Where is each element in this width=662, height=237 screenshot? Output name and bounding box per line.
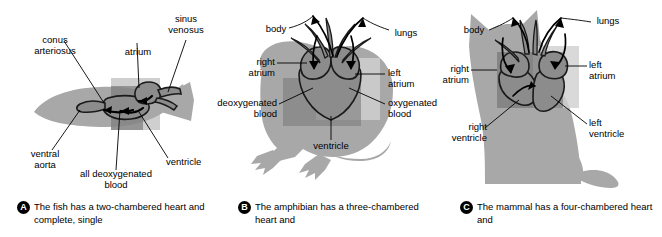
panel-fish: conus arteriosus atrium sinus venosus ve… [0, 0, 221, 237]
label-conus-arteriosus: conus arteriosus [14, 34, 96, 56]
leader-sinus [168, 40, 186, 92]
badge-a: A [17, 201, 30, 214]
comparative-heart-figure: conus arteriosus atrium sinus venosus ve… [0, 0, 662, 237]
label-lungs: lungs [587, 15, 629, 26]
caption-mammal-text: The mammal has a four-chambered heart an… [477, 201, 657, 226]
label-right-atrium: right atrium [421, 63, 469, 85]
label-left-atrium-line2: atrium [589, 70, 641, 81]
label-deoxygenated-blood: deoxygenated blood [205, 97, 277, 119]
badge-b: B [238, 201, 251, 214]
label-right-ventricle-line2: ventricle [417, 132, 487, 143]
label-ventricle: ventricle [166, 156, 220, 167]
label-lungs-line1: lungs [587, 15, 629, 26]
label-ventral-aorta-line1: ventral [18, 148, 72, 159]
fish-conus-arteriosus [77, 101, 105, 112]
label-ventral-aorta: ventral aorta [18, 148, 72, 170]
label-left-atrium-line1: left [589, 59, 641, 70]
label-ventricle-line1: ventricle [303, 140, 359, 151]
caption-amphibian-text: The amphibian has a three-chambered hear… [255, 201, 435, 226]
label-body-line1: body [257, 23, 295, 34]
label-deoxygenated-blood-line2: blood [205, 108, 277, 119]
panel-amphibian: body lungs right atrium left atrium deox… [221, 0, 442, 237]
label-ventricle: ventricle [303, 140, 359, 151]
label-all-deoxygenated-blood-line2: blood [62, 179, 170, 190]
label-ventricle-line1: ventricle [166, 156, 220, 167]
label-right-ventricle: right ventricle [417, 121, 487, 143]
label-atrium: atrium [112, 46, 164, 57]
label-left-ventricle: left ventricle [589, 117, 655, 139]
label-atrium-line1: atrium [112, 46, 164, 57]
label-conus-arteriosus-line1: conus [14, 34, 96, 45]
caption-fish-text: The fish has a two-chambered heart and c… [34, 201, 214, 226]
label-all-deoxygenated-blood-line1: all deoxygenated [62, 168, 170, 179]
label-right-ventricle-line1: right [417, 121, 487, 132]
caption-amphibian: B The amphibian has a three-chambered he… [221, 198, 442, 237]
label-right-atrium-line1: right [227, 56, 275, 67]
panel-mammal: body lungs right atrium left atrium righ… [441, 0, 662, 237]
label-body-line1: body [455, 24, 493, 35]
label-right-atrium-line2: atrium [227, 67, 275, 78]
label-left-ventricle-line1: left [589, 117, 655, 128]
label-body: body [257, 23, 295, 34]
caption-mammal: C The mammal has a four-chambered heart … [441, 198, 662, 237]
label-right-atrium-line1: right [421, 63, 469, 74]
cat-tail [580, 170, 618, 188]
badge-c: C [460, 201, 473, 214]
caption-fish: A The fish has a two-chambered heart and… [0, 198, 221, 237]
label-all-deoxygenated-blood: all deoxygenated blood [62, 168, 170, 190]
label-sinus-venosus: sinus venosus [158, 13, 214, 35]
label-sinus-venosus-line1: sinus [158, 13, 214, 24]
label-lungs-line1: lungs [385, 27, 427, 38]
label-deoxygenated-blood-line1: deoxygenated [205, 97, 277, 108]
label-left-atrium: left atrium [589, 59, 641, 81]
label-left-ventricle-line2: ventricle [589, 128, 655, 139]
label-conus-arteriosus-line2: arteriosus [14, 45, 96, 56]
label-right-atrium: right atrium [227, 56, 275, 78]
label-body: body [455, 24, 493, 35]
label-sinus-venosus-line2: venosus [158, 24, 214, 35]
label-right-atrium-line2: atrium [421, 74, 469, 85]
label-lungs: lungs [385, 27, 427, 38]
frog-foot-right [299, 154, 331, 180]
